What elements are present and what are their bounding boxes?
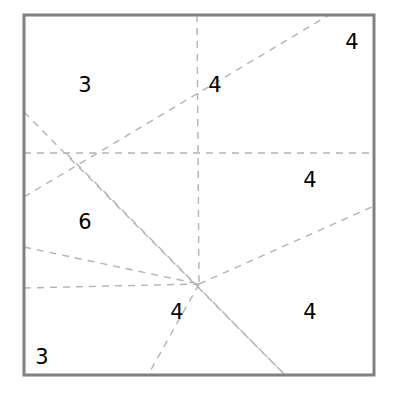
region-label-6-left-middle: 6 [78,212,91,233]
region-label-3-bottom-left: 3 [35,347,48,368]
region-label-4-upper-right: 4 [345,32,358,53]
region-label-4-bottom-right: 4 [303,302,316,323]
line-vertex-left-to-bottom [24,247,199,284]
line-diagonal-down-right [24,112,285,375]
line-steep-top-to-vertex [197,15,199,284]
dashed-lines-group [24,15,374,375]
bounding-square [24,15,374,375]
region-label-4-right-middle: 4 [303,170,316,191]
region-label-4-bottom-middle: 4 [170,302,183,323]
bounding-square-group [24,15,374,375]
line-arrangement-diagram [0,0,397,397]
line-vertex-to-bottom-left [148,284,199,375]
line-horizontal-lower [24,284,199,288]
region-label-4-upper-middle: 4 [208,75,221,96]
line-vertex-to-right-edge [199,206,374,284]
region-label-3-upper-left: 3 [78,75,91,96]
figure-container: 34446443 [0,0,397,397]
line-diagonal-up-right [24,15,329,197]
line-vertex-left-to-lower-bottom [67,154,285,375]
